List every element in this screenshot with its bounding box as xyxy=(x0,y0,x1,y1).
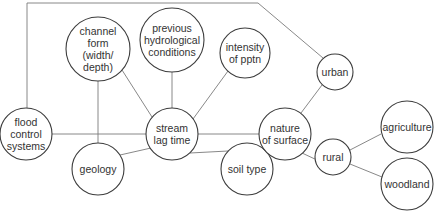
node-flood: floodcontrolsystems xyxy=(0,108,52,160)
node-label: flood xyxy=(15,116,38,128)
node-label: hydrological xyxy=(144,34,200,46)
edge-rural-agriculture xyxy=(350,134,381,150)
node-label: nature xyxy=(270,122,300,134)
node-nature: natureof surface xyxy=(259,108,311,160)
node-rural: rural xyxy=(315,139,351,175)
node-label: conditions xyxy=(148,46,195,58)
node-label: intensity xyxy=(226,41,265,53)
node-urban: urban xyxy=(317,54,353,90)
edge-geology-stream xyxy=(120,148,151,155)
node-geology: geology xyxy=(72,143,124,195)
node-label: control xyxy=(10,128,42,140)
node-intensity: intensityof pptn xyxy=(220,28,270,78)
node-label: depth) xyxy=(83,61,113,73)
node-agriculture: agriculture xyxy=(381,101,433,153)
node-woodland: woodland xyxy=(381,158,433,210)
node-label: geology xyxy=(80,163,118,175)
node-label: systems xyxy=(7,140,46,152)
stream-lag-time-concept-map: floodcontrolsystemschannelform(width/dep… xyxy=(0,0,438,215)
node-label: stream xyxy=(156,122,188,134)
edge-channel-stream xyxy=(122,70,152,117)
node-label: of surface xyxy=(262,134,308,146)
node-label: (width/ xyxy=(83,49,114,61)
node-channel: channelform(width/depth) xyxy=(66,17,130,81)
node-label: soil type xyxy=(228,163,267,175)
node-label: urban xyxy=(322,66,349,78)
edge-rural-woodland xyxy=(350,164,382,177)
node-label: woodland xyxy=(384,178,430,190)
node-label: rural xyxy=(322,151,343,163)
edge-soil-stream xyxy=(190,151,228,153)
node-stream: streamlag time xyxy=(146,108,198,160)
node-label: form xyxy=(88,37,109,49)
edge-intensity-stream xyxy=(193,71,228,119)
factor-nodes: floodcontrolsystemschannelform(width/dep… xyxy=(0,8,433,210)
node-label: channel xyxy=(80,25,117,37)
node-previous: previoushydrologicalconditions xyxy=(140,8,204,72)
edge-nature-urban xyxy=(301,85,322,113)
node-label: agriculture xyxy=(382,121,431,133)
node-label: lag time xyxy=(154,134,191,146)
node-label: of pptn xyxy=(229,53,261,65)
node-label: previous xyxy=(152,22,192,34)
